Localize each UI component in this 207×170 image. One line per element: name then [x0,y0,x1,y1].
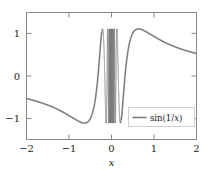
x-tick-label-neg2: −2 [19,143,34,154]
figure-canvas: 1 0 −1 −2 −1 0 1 2 x sin(1/x) [0,0,207,170]
y-tick-label-neg1: −1 [5,113,20,124]
x-axis-title: x [109,157,115,168]
legend-label-suffix: ) [179,113,182,123]
x-tick-label-2: 2 [193,143,199,154]
x-tick-label-0: 0 [108,143,114,154]
x-tick-label-1: 1 [151,143,157,154]
x-tick-label-neg1: −1 [62,143,77,154]
y-tick-label-0: 0 [14,71,20,82]
y-tick-label-1: 1 [14,28,20,39]
legend[interactable]: sin(1/x) [129,108,195,127]
legend-label-prefix: sin(1/ [150,113,174,123]
legend-label: sin(1/x) [150,113,182,123]
plot-area: 1 0 −1 −2 −1 0 1 2 x sin(1/x) [0,0,207,170]
